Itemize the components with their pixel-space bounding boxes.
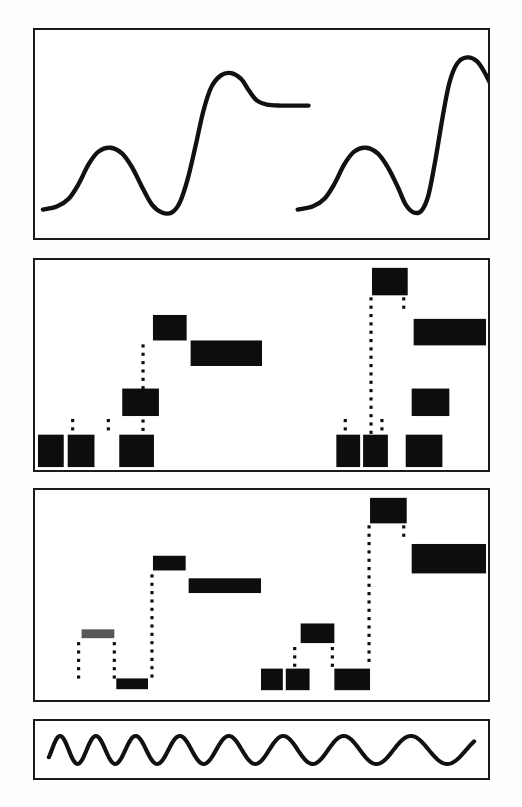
panel-quantized-b-canvas: [35, 490, 488, 700]
quantized-block: [301, 623, 335, 643]
quantized-block: [38, 435, 64, 467]
dotted-riser: [331, 647, 334, 667]
dotted-riser: [107, 419, 110, 430]
quantized-block: [286, 669, 310, 691]
waveform-trace-pulse-left: [43, 73, 309, 214]
dotted-riser: [141, 344, 144, 431]
quantized-block: [412, 389, 450, 416]
quantized-block: [153, 315, 187, 341]
dotted-riser: [71, 419, 74, 430]
dotted-riser: [380, 419, 383, 430]
dotted-riser: [77, 642, 80, 679]
panel-chirp: [33, 719, 490, 780]
quantized-block: [261, 669, 283, 691]
quantized-block: [334, 669, 370, 691]
quantized-block: [363, 435, 388, 467]
dotted-riser: [369, 297, 372, 434]
quantized-block: [370, 498, 407, 524]
quantized-block: [82, 629, 115, 638]
dotted-riser: [293, 647, 296, 667]
dotted-riser: [150, 574, 153, 677]
quantized-block: [372, 268, 408, 295]
quantized-block: [153, 556, 186, 571]
panel-chirp-canvas: [35, 721, 488, 778]
panel-analog-waveform-canvas: [35, 30, 488, 238]
panel-quantized-a: [33, 258, 490, 472]
quantized-block: [122, 389, 159, 416]
quantized-block: [406, 435, 443, 467]
waveform-trace-pulse-right: [298, 57, 488, 213]
quantized-block: [189, 578, 261, 593]
quantized-block: [191, 340, 262, 366]
dotted-riser: [113, 642, 116, 679]
quantized-block: [119, 435, 154, 467]
quantized-block: [414, 319, 486, 345]
quantized-block: [412, 544, 486, 573]
panel-analog-waveform: [33, 28, 490, 240]
dotted-riser: [402, 525, 405, 536]
quantized-block: [116, 678, 148, 689]
dotted-riser: [367, 525, 370, 662]
quantized-block: [68, 435, 95, 467]
dotted-riser: [344, 419, 347, 430]
figure-root: [0, 0, 522, 807]
chirp-trace: [49, 736, 474, 764]
quantized-block: [336, 435, 360, 467]
dotted-riser: [402, 297, 405, 308]
panel-quantized-b: [33, 488, 490, 702]
panel-quantized-a-canvas: [35, 260, 488, 470]
